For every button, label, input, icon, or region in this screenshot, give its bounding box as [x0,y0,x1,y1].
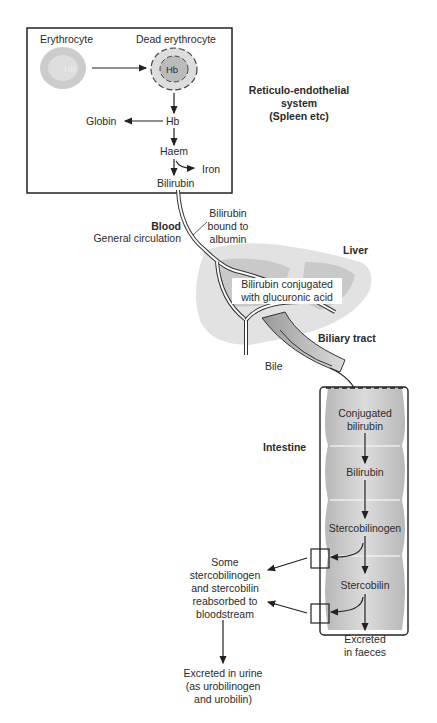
albumin-label: Bilirubin bound to albumin [203,207,253,246]
hb-label: Hb [166,115,179,128]
step-stercobilin: Stercobilin [325,579,405,592]
intestine-label: Intestine [263,441,306,454]
urine-label: Excreted in urine (as urobilinogen and u… [178,667,268,706]
erythrocyte-hb: Hb [64,63,76,76]
biliary-tract-label: Biliary tract [318,332,376,345]
iron-label: Iron [202,163,220,176]
reabsorbed-label: Some stercobilinogen and stercobilin rea… [180,556,270,621]
erythrocyte-icon [40,47,86,89]
step-bilirubin: Bilirubin [325,466,405,479]
conjugation-label: Bilirubin conjugated with glucuronic aci… [232,278,342,304]
globin-label: Globin [86,115,116,128]
erythrocyte-label: Erythrocyte [40,33,93,46]
general-circulation-label: General circulation [75,232,181,245]
res-label: Reticulo-endothelial system (Spleen etc) [244,84,354,123]
dead-erythrocyte-label: Dead erythrocyte [136,33,216,46]
bile-label: Bile [265,360,283,373]
step-stercobilinogen: Stercobilinogen [325,522,405,535]
bilirubin-label: Bilirubin [157,177,194,190]
dead-erythrocyte-hb: Hb [166,63,178,76]
haem-label: Haem [160,145,188,158]
liver-label: Liver [343,244,368,257]
faeces-label: Excreted in faeces [335,633,395,659]
step-conjugated-bilirubin: Conjugated bilirubin [325,407,405,433]
